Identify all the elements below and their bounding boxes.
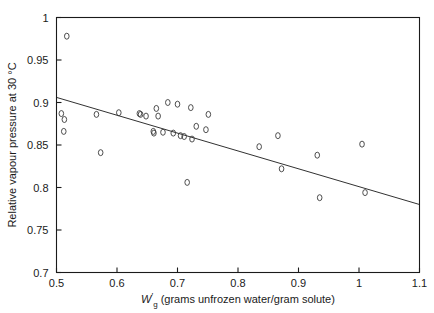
- x-tick-label: 0.7: [170, 277, 185, 289]
- x-tick-label: 1.1: [412, 277, 427, 289]
- data-point: [171, 130, 176, 136]
- x-axis-title: W′g (grams unfrozen water/gram solute): [141, 291, 335, 309]
- data-point: [363, 190, 368, 196]
- x-tick-label: 0.6: [109, 277, 124, 289]
- data-point: [98, 150, 103, 156]
- fit-line: [57, 97, 420, 204]
- data-point: [161, 129, 166, 135]
- data-point: [317, 195, 322, 201]
- data-point: [204, 127, 209, 133]
- data-point: [144, 113, 149, 119]
- y-tick-label: 0.95: [27, 54, 48, 66]
- data-point: [166, 100, 171, 106]
- data-point: [189, 105, 194, 111]
- x-tick-label: 0.9: [291, 277, 306, 289]
- data-point: [194, 123, 199, 129]
- y-tick-label: 0.8: [33, 182, 48, 194]
- data-point: [156, 113, 161, 119]
- y-tick-label: 0.9: [33, 97, 48, 109]
- data-point: [59, 111, 64, 117]
- data-point: [276, 133, 281, 139]
- data-point: [117, 110, 122, 116]
- plot-frame: [57, 18, 420, 273]
- x-tick-label: 0.5: [49, 277, 64, 289]
- x-axis-ticks: 0.50.60.70.80.911.1: [49, 268, 427, 289]
- chart-figure: 0.50.60.70.80.911.1 0.70.750.80.850.90.9…: [0, 0, 434, 313]
- data-point: [94, 111, 99, 117]
- data-point: [154, 105, 159, 111]
- y-axis-title: Relative vapour pressure at 30 °C: [6, 62, 18, 227]
- data-point: [62, 117, 67, 123]
- data-point: [61, 128, 66, 134]
- y-tick-label: 0.85: [27, 139, 48, 151]
- y-tick-label: 0.7: [33, 267, 48, 279]
- data-point: [360, 141, 365, 147]
- data-point: [206, 111, 211, 117]
- regression-line: [57, 97, 420, 204]
- x-tick-label: 1: [356, 277, 362, 289]
- data-point: [257, 144, 262, 150]
- y-tick-label: 1: [42, 12, 48, 24]
- y-tick-label: 0.75: [27, 224, 48, 236]
- data-point: [175, 101, 180, 107]
- data-point: [279, 166, 284, 172]
- data-point: [185, 179, 190, 185]
- data-point: [64, 33, 69, 39]
- scatter-plot-svg: 0.50.60.70.80.911.1 0.70.750.80.850.90.9…: [0, 0, 434, 313]
- x-tick-label: 0.8: [230, 277, 245, 289]
- data-point: [315, 152, 320, 158]
